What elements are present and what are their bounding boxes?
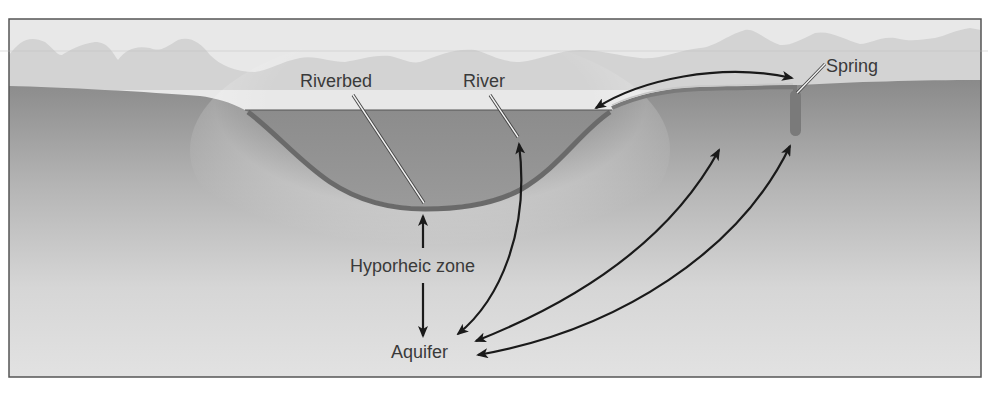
spring-outlet [790, 90, 801, 136]
river-label: River [463, 71, 505, 91]
hyporheic-diagram: Riverbed River Spring Hyporheic zone Aqu… [0, 0, 988, 394]
riverbed-label: Riverbed [300, 71, 372, 91]
hyporheic-zone-label: Hyporheic zone [350, 256, 475, 276]
scene: Riverbed River Spring Hyporheic zone Aqu… [9, 19, 981, 377]
spring-label: Spring [826, 56, 878, 76]
aquifer-label: Aquifer [391, 342, 448, 362]
